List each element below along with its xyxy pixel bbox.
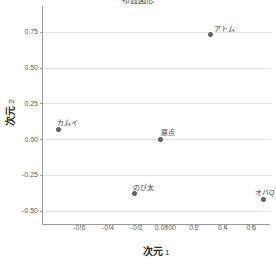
data-point-label: アトム [214, 25, 235, 33]
scatter-plot-chart: 布置図形 アトムカムイ原点のび太オバQ 0.750.500.250.00-0.2… [0, 0, 276, 266]
y-tick-mark [40, 211, 43, 212]
plot-area: アトムカムイ原点のび太オバQ [42, 6, 270, 225]
y-tick-label: -0.25 [8, 171, 38, 178]
y-tick-mark [40, 32, 43, 33]
gridline [43, 211, 271, 212]
data-point-label: カムイ [57, 119, 78, 127]
data-point[interactable] [132, 191, 137, 196]
y-tick-mark [40, 68, 43, 69]
data-point-label: オバQ [255, 189, 274, 197]
x-axis-title: 次元 1 [42, 243, 270, 258]
data-point-label: のび太 [133, 184, 154, 192]
data-point-label: 原点 [161, 129, 175, 137]
data-point[interactable] [261, 197, 266, 202]
data-point[interactable] [158, 137, 163, 142]
gridline [43, 103, 271, 104]
y-tick-mark [40, 175, 43, 176]
y-tick-mark [40, 103, 43, 104]
data-point[interactable] [208, 32, 213, 37]
gridline [43, 175, 271, 176]
gridline [43, 68, 271, 69]
y-tick-label: 0.50 [8, 64, 38, 71]
x-tick-label: 0.6 [231, 224, 271, 231]
gridline [43, 32, 271, 33]
data-point[interactable] [56, 127, 61, 132]
y-axis-title: 次元 2 [2, 78, 17, 148]
gridline [43, 139, 271, 140]
y-tick-label: 0.75 [8, 28, 38, 35]
y-tick-label: -0.50 [8, 207, 38, 214]
y-tick-mark [40, 139, 43, 140]
